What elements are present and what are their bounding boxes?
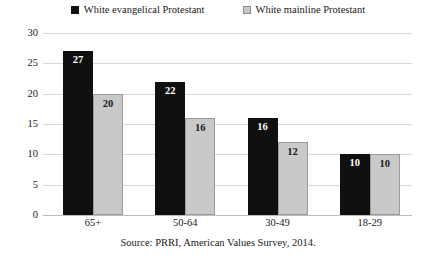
y-axis-tick-label: 15 bbox=[28, 119, 39, 130]
bar: 16 bbox=[185, 118, 215, 215]
y-axis-tick-label: 25 bbox=[28, 58, 39, 69]
bar-value-label: 12 bbox=[279, 147, 307, 158]
x-axis-tick-label: 18-29 bbox=[358, 218, 383, 229]
bar-value-label: 27 bbox=[63, 55, 93, 66]
y-axis-tick-label: 0 bbox=[33, 210, 38, 221]
y-axis-tick-label: 5 bbox=[33, 179, 38, 190]
legend-entry-white-mainline-protestant: White mainline Protestant bbox=[243, 5, 366, 16]
source-note: Source: PRRI, American Values Survey, 20… bbox=[0, 238, 436, 249]
bar: 27 bbox=[63, 51, 93, 215]
filled-square-icon bbox=[71, 6, 79, 14]
y-axis-tick-label: 20 bbox=[28, 88, 39, 99]
plot-area: 2720221616121010 bbox=[43, 33, 412, 215]
x-axis-tick-label: 50-64 bbox=[173, 218, 198, 229]
bar-group: 1010 bbox=[320, 33, 412, 215]
x-axis-tick-label: 65+ bbox=[85, 218, 101, 229]
bar-value-label: 22 bbox=[155, 86, 185, 97]
bar: 16 bbox=[248, 118, 278, 215]
bar-group: 1612 bbox=[228, 33, 320, 215]
bar-value-label: 16 bbox=[248, 122, 278, 133]
x-axis-tick-label: 30-49 bbox=[265, 218, 290, 229]
y-axis-tick-label: 30 bbox=[28, 28, 39, 39]
y-axis-tick-label: 10 bbox=[28, 149, 39, 160]
bar-group: 2720 bbox=[43, 33, 135, 215]
bar-value-label: 16 bbox=[186, 123, 214, 134]
bar: 10 bbox=[340, 154, 370, 215]
bar-value-label: 10 bbox=[340, 158, 370, 169]
y-axis: 051015202530 bbox=[0, 33, 38, 215]
chart-legend: White evangelical Protestant White mainl… bbox=[0, 2, 436, 18]
bar: 10 bbox=[370, 154, 400, 215]
legend-entry-white-evangelical-protestant: White evangelical Protestant bbox=[71, 5, 205, 16]
bar: 22 bbox=[155, 82, 185, 215]
legend-label: White mainline Protestant bbox=[256, 5, 366, 16]
outlined-square-icon bbox=[243, 6, 251, 14]
bar-groups: 2720221616121010 bbox=[43, 33, 412, 215]
bar: 20 bbox=[93, 94, 123, 215]
legend-label: White evangelical Protestant bbox=[84, 5, 205, 16]
bar-value-label: 10 bbox=[371, 159, 399, 170]
bar-group: 2216 bbox=[135, 33, 227, 215]
gridline bbox=[43, 215, 412, 216]
bar-value-label: 20 bbox=[94, 99, 122, 110]
x-axis: 65+50-6430-4918-29 bbox=[43, 218, 412, 234]
bar: 12 bbox=[278, 142, 308, 215]
